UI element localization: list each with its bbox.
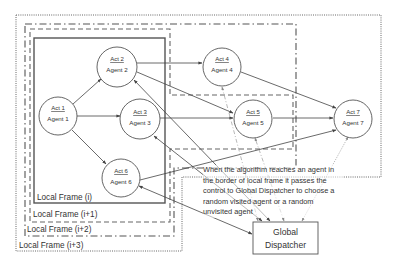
node-act4-act: Act 4 (215, 56, 229, 62)
frame-i1-label: Local Frame (i+1) (33, 210, 98, 219)
node-act4: Act 4 Agent 4 (203, 48, 241, 86)
node-act6-agent: Agent 6 (110, 178, 132, 185)
global-dispatcher-box: Global Dispatcher (253, 222, 318, 254)
node-act2-agent: Agent 2 (106, 66, 128, 73)
edge-act1-act6 (72, 130, 106, 164)
node-act7: Act 7 Agent 7 (334, 100, 372, 138)
node-act5-act: Act 5 (246, 109, 260, 115)
node-act5: Act 5 Agent 5 (234, 100, 272, 138)
node-act1: Act 1 Agent 1 (39, 97, 77, 135)
node-act4-agent: Agent 4 (211, 66, 233, 73)
local-frames-diagram: Local Frame (i) Local Frame (i+1) Local … (0, 0, 396, 268)
node-act6-act: Act 6 (114, 168, 128, 174)
frame-i2-label: Local Frame (i+2) (27, 225, 92, 234)
dispatcher-label-line1: Global (273, 227, 298, 237)
node-act7-act: Act 7 (346, 109, 360, 115)
node-act1-act: Act 1 (51, 105, 65, 111)
edge-act1-act2 (73, 79, 101, 104)
node-act5-agent: Agent 5 (242, 119, 264, 126)
node-act2: Act 2 Agent 2 (97, 47, 137, 87)
dispatcher-label-line2: Dispatcher (265, 240, 306, 250)
node-act3-act: Act 3 (133, 109, 147, 115)
node-act7-agent: Agent 7 (342, 119, 364, 126)
frame-i-label: Local Frame (i) (37, 193, 92, 202)
dispatcher-note: When the algorithm reaches an agent in t… (203, 165, 343, 218)
frame-i3-label: Local Frame (i+3) (19, 241, 84, 250)
node-act6: Act 6 Agent 6 (102, 159, 140, 197)
node-act3: Act 3 Agent 3 (120, 99, 160, 139)
node-act1-agent: Agent 1 (47, 115, 69, 122)
node-act3-agent: Agent 3 (129, 119, 151, 126)
node-act2-act: Act 2 (110, 56, 124, 62)
